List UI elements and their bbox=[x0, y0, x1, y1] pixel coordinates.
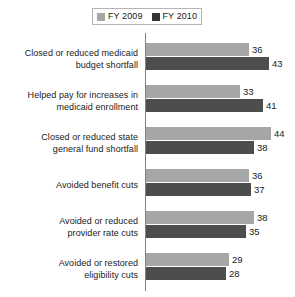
category-label: Avoided or restored eligibility cuts bbox=[6, 253, 138, 281]
bar-group: Avoided or reduced provider rate cuts 38… bbox=[0, 211, 295, 253]
category-label-line1: Closed or reduced medicaid bbox=[6, 48, 138, 60]
bar-group: Avoided benefit cuts 36 37 bbox=[0, 169, 295, 211]
category-label-line1: Avoided benefit cuts bbox=[6, 180, 138, 192]
bar-value-fy2009: 38 bbox=[254, 211, 268, 224]
bar-group: Avoided or restored eligibility cuts 29 … bbox=[0, 253, 295, 295]
chart-legend: FY 2009 FY 2010 bbox=[92, 8, 202, 25]
bar-fy2009 bbox=[146, 169, 249, 182]
category-label-line1: Helped pay for increases in bbox=[6, 90, 138, 102]
bar-fy2009 bbox=[146, 85, 240, 98]
bar-fy2009 bbox=[146, 43, 249, 56]
bar-row-fy2010: 35 bbox=[146, 225, 268, 238]
bar-row-fy2009: 36 bbox=[146, 169, 271, 182]
category-label-line2: eligibility cuts bbox=[6, 270, 138, 282]
category-label-line2: medicaid enrollment bbox=[6, 102, 138, 114]
legend-swatch-fy2010-icon bbox=[152, 13, 160, 21]
bar-value-fy2010: 38 bbox=[254, 141, 268, 154]
bar-value-fy2010: 43 bbox=[269, 57, 283, 70]
bar-fy2010 bbox=[146, 99, 263, 112]
category-label: Closed or reduced medicaid budget shortf… bbox=[6, 43, 138, 71]
category-label-line2: budget shortfall bbox=[6, 60, 138, 72]
bar-row-fy2010: 38 bbox=[146, 141, 276, 154]
bar-value-fy2010: 35 bbox=[246, 225, 260, 238]
category-label: Avoided benefit cuts bbox=[6, 169, 138, 192]
bar-value-fy2009: 36 bbox=[249, 43, 263, 56]
bar-row-fy2009: 44 bbox=[146, 127, 293, 140]
bar-value-fy2009: 29 bbox=[229, 253, 243, 266]
bar-value-fy2010: 28 bbox=[226, 267, 240, 280]
bar-row-fy2010: 28 bbox=[146, 267, 248, 280]
bar-value-fy2009: 36 bbox=[249, 169, 263, 182]
bar-group: Helped pay for increases in medicaid enr… bbox=[0, 85, 295, 127]
category-label-line2: provider rate cuts bbox=[6, 228, 138, 240]
bar-fy2009 bbox=[146, 127, 271, 140]
bar-fy2010 bbox=[146, 225, 246, 238]
bar-value-fy2009: 44 bbox=[271, 127, 285, 140]
category-label: Helped pay for increases in medicaid enr… bbox=[6, 85, 138, 113]
bar-group: Closed or reduced state general fund sho… bbox=[0, 127, 295, 169]
bar-row-fy2009: 38 bbox=[146, 211, 276, 224]
bar-fy2010 bbox=[146, 141, 254, 154]
bar-fy2010 bbox=[146, 267, 226, 280]
legend-entry-fy2009: FY 2009 bbox=[97, 12, 143, 21]
chart-plot-area: Closed or reduced medicaid budget shortf… bbox=[0, 33, 295, 291]
bar-group: Closed or reduced medicaid budget shortf… bbox=[0, 43, 295, 85]
legend-entry-fy2010: FY 2010 bbox=[152, 12, 198, 21]
category-label-line1: Avoided or reduced bbox=[6, 216, 138, 228]
bar-fy2009 bbox=[146, 211, 254, 224]
category-label-line1: Avoided or restored bbox=[6, 258, 138, 270]
bar-row-fy2009: 33 bbox=[146, 85, 262, 98]
bar-fy2010 bbox=[146, 183, 251, 196]
category-label-line2: general fund shortfall bbox=[6, 144, 138, 156]
legend-swatch-fy2009-icon bbox=[97, 13, 105, 21]
legend-label-fy2009: FY 2009 bbox=[108, 12, 143, 21]
category-label: Avoided or reduced provider rate cuts bbox=[6, 211, 138, 239]
category-label-line1: Closed or reduced state bbox=[6, 132, 138, 144]
category-label: Closed or reduced state general fund sho… bbox=[6, 127, 138, 155]
bar-fy2009 bbox=[146, 253, 229, 266]
bar-value-fy2010: 37 bbox=[251, 183, 265, 196]
bar-fy2010 bbox=[146, 57, 269, 70]
bar-row-fy2009: 36 bbox=[146, 43, 271, 56]
bar-value-fy2010: 41 bbox=[263, 99, 277, 112]
bar-row-fy2009: 29 bbox=[146, 253, 251, 266]
bar-row-fy2010: 43 bbox=[146, 57, 291, 70]
bar-value-fy2009: 33 bbox=[240, 85, 254, 98]
bar-row-fy2010: 41 bbox=[146, 99, 285, 112]
legend-label-fy2010: FY 2010 bbox=[163, 12, 198, 21]
bar-row-fy2010: 37 bbox=[146, 183, 273, 196]
